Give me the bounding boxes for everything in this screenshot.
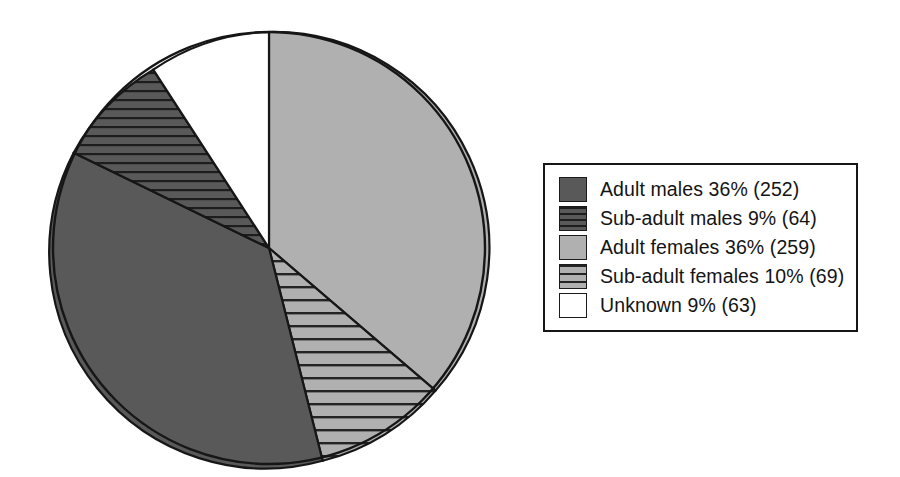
chart-legend: Adult males 36% (252) Sub-adult males 9%…	[543, 163, 858, 332]
legend-label-sub-adult-females: Sub-adult females 10% (69)	[600, 267, 844, 287]
legend-label-adult-males: Adult males 36% (252)	[600, 180, 799, 200]
legend-swatch-adult-females	[559, 235, 587, 260]
legend-swatch-unknown	[559, 293, 587, 318]
legend-swatch-sub-adult-females	[559, 264, 587, 289]
legend-item-unknown[interactable]: Unknown 9% (63)	[559, 291, 848, 320]
legend-swatch-adult-males	[559, 177, 587, 202]
legend-label-unknown: Unknown 9% (63)	[600, 296, 757, 316]
legend-item-sub-adult-males[interactable]: Sub-adult males 9% (64)	[559, 204, 848, 233]
legend-item-adult-females[interactable]: Adult females 36% (259)	[559, 233, 848, 262]
legend-swatch-sub-adult-males	[559, 206, 587, 231]
legend-label-sub-adult-males: Sub-adult males 9% (64)	[600, 209, 817, 229]
legend-label-adult-females: Adult females 36% (259)	[600, 238, 816, 258]
pie-chart-figure: Adult males 36% (252) Sub-adult males 9%…	[0, 0, 900, 477]
legend-item-sub-adult-females[interactable]: Sub-adult females 10% (69)	[559, 262, 848, 291]
legend-item-adult-males[interactable]: Adult males 36% (252)	[559, 175, 848, 204]
